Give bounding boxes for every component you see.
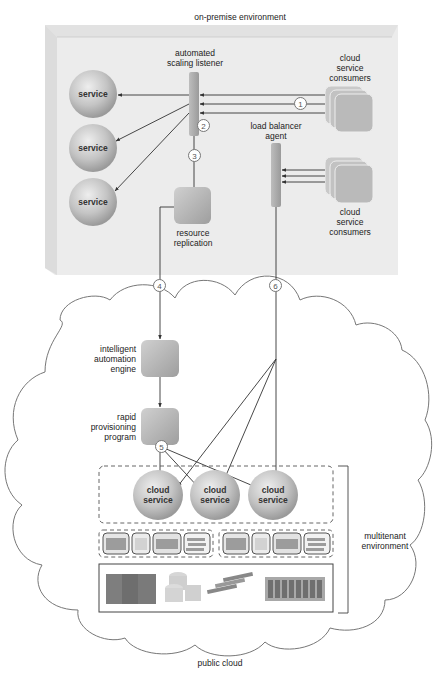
consumers-top-label: cloud service consumers	[320, 53, 380, 83]
step-5-badge: 5	[155, 440, 168, 453]
step-4-badge: 4	[153, 279, 166, 292]
multitenant-environment-label: multitenant environment	[350, 531, 420, 551]
intelligent-automation-engine-node	[141, 340, 179, 377]
intelligent-automation-engine-label: intelligent automation engine	[70, 344, 136, 374]
on-premise-environment-title: on-premise environment	[160, 12, 320, 22]
step-6-badge: 6	[269, 279, 282, 292]
step-2-badge: 2	[197, 119, 210, 132]
virtual-resources-group-2	[219, 530, 333, 557]
rapid-provisioning-program-label: rapid provisioning program	[70, 412, 136, 442]
service-label-3: service	[69, 197, 117, 207]
public-cloud-title: public cloud	[180, 658, 260, 668]
cloud-service-label-2: cloud service	[191, 485, 239, 505]
diagram-canvas	[0, 0, 438, 675]
resource-replication-node	[174, 187, 211, 224]
step-1-badge: 1	[294, 97, 307, 110]
load-balancer-agent-label: load balancer agent	[236, 121, 316, 141]
consumers-bottom-stack	[325, 157, 373, 203]
automated-scaling-listener-label: automated scaling listener	[150, 48, 240, 68]
service-label-2: service	[69, 143, 117, 153]
step-3-badge: 3	[188, 149, 201, 162]
service-label-1: service	[69, 89, 117, 99]
load-balancer-agent-bar	[271, 143, 281, 207]
virtual-resources-group-1	[99, 530, 213, 557]
cloud-service-label-1: cloud service	[134, 485, 182, 505]
resource-replication-label: resource replication	[160, 228, 226, 248]
physical-infrastructure	[99, 564, 333, 612]
consumers-top-stack	[325, 86, 373, 132]
consumers-bottom-label: cloud service consumers	[320, 207, 380, 237]
cloud-service-label-3: cloud service	[249, 485, 297, 505]
